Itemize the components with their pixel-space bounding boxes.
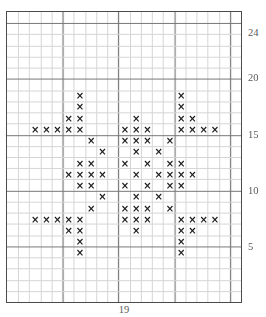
y-axis-tick-5: 5 — [248, 241, 253, 252]
cross-stitch-chart: ××××××××××××××××××××××××××××××××××××××××… — [0, 0, 266, 317]
y-axis-tick-24: 24 — [248, 27, 259, 38]
x-axis-label: 19 — [0, 304, 248, 315]
y-axis-tick-20: 20 — [248, 72, 259, 83]
stitch-grid[interactable]: ××××××××××××××××××××××××××××××××××××××××… — [6, 11, 242, 303]
y-axis-tick-15: 15 — [248, 129, 259, 140]
grid-lines-canvas — [7, 12, 241, 302]
top-clipped-text — [4, 0, 68, 7]
y-axis-tick-10: 10 — [248, 185, 259, 196]
